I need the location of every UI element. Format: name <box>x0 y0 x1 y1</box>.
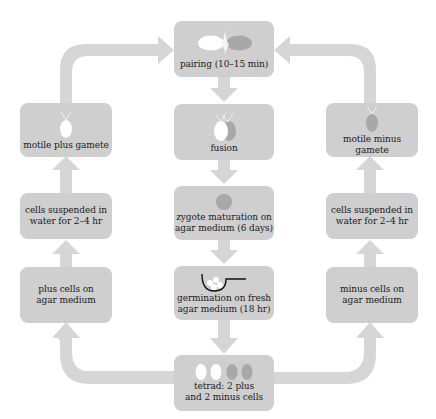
tetrad-cells-icon <box>192 363 256 381</box>
arrow-zygote-to-germination <box>210 240 238 264</box>
motile-plus-label: motile plus gamete <box>23 140 109 151</box>
pairing-box: pairing (10–15 min) <box>174 21 274 77</box>
fusion-label: fusion <box>210 143 237 154</box>
minus-agar-label: minus cells on agar medium <box>340 284 404 306</box>
zygote-label: zygote maturation on agar medium (6 days… <box>175 212 273 234</box>
fusion-cell-icon <box>204 111 244 143</box>
arrow-germination-to-tetrad <box>210 320 238 354</box>
arrow-motile-minus-to-pairing <box>274 36 376 104</box>
germination-label: germination on fresh agar medium (18 hr) <box>177 293 271 315</box>
pairing-label: pairing (10–15 min) <box>180 59 268 70</box>
plus-agar-box: plus cells on agar medium <box>20 267 112 323</box>
arrow-plus-cells-to-suspended <box>52 240 80 268</box>
zygote-icon <box>214 192 234 212</box>
plus-gamete-icon <box>54 110 78 140</box>
arrow-right-bottom-band <box>274 322 384 384</box>
arrow-minus-cells-to-suspended <box>356 240 384 268</box>
right-suspended-label: cells suspended in water for 2–4 hr <box>331 205 413 227</box>
arrow-suspended-to-motile-minus <box>356 156 384 194</box>
tetrad-box: tetrad: 2 plus and 2 minus cells <box>174 355 274 411</box>
motile-plus-box: motile plus gamete <box>20 103 112 157</box>
pairing-cells-icon <box>179 29 269 57</box>
arrow-pairing-to-fusion <box>210 76 238 102</box>
motile-minus-label: motile minus gamete <box>326 134 418 156</box>
right-suspended-box: cells suspended in water for 2–4 hr <box>326 193 418 239</box>
germination-box: germination on fresh agar medium (18 hr) <box>174 266 274 320</box>
fusion-box: fusion <box>174 104 274 160</box>
left-suspended-box: cells suspended in water for 2–4 hr <box>20 193 112 239</box>
minus-agar-box: minus cells on agar medium <box>326 267 418 323</box>
tetrad-label: tetrad: 2 plus and 2 minus cells <box>185 381 263 403</box>
arrow-left-bottom-band <box>52 322 174 384</box>
arrow-suspended-to-motile-plus <box>52 156 80 194</box>
minus-gamete-icon <box>360 104 384 134</box>
arrow-fusion-to-zygote <box>210 160 238 184</box>
arrow-motile-plus-to-pairing <box>60 36 174 104</box>
motile-minus-box: motile minus gamete <box>326 103 418 157</box>
left-suspended-label: cells suspended in water for 2–4 hr <box>25 205 107 227</box>
life-cycle-diagram: pairing (10–15 min) fusion zygote matura… <box>0 0 436 419</box>
germination-dish-icon <box>194 271 254 293</box>
plus-agar-label: plus cells on agar medium <box>36 284 95 306</box>
zygote-box: zygote maturation on agar medium (6 days… <box>174 186 274 240</box>
